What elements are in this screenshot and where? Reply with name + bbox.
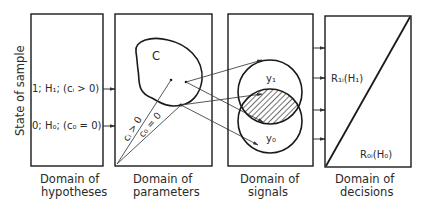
decision-region-r0: R₀ᵢ(H₀) xyxy=(360,149,392,160)
parameter-region-c xyxy=(136,39,202,107)
panel-hypotheses: 1; H₁; (cᵢ > 0) 0; H₀; (c₀ = 0) Domain o… xyxy=(31,14,107,199)
y-axis-label: State of sample xyxy=(13,45,27,136)
signal-y0-label: y₀ xyxy=(266,133,276,144)
arrow-map-1 xyxy=(186,60,262,82)
hypotheses-caption-2: hypotheses xyxy=(41,185,107,199)
decision-boundary xyxy=(326,17,410,166)
decisions-caption-1: Domain of xyxy=(335,172,395,186)
decisions-caption-2: decisions xyxy=(340,185,393,199)
signals-caption-1: Domain of xyxy=(240,172,300,186)
panel-decisions: R₁ᵢ(H₁) R₀ᵢ(H₀) Domain of decisions xyxy=(325,16,411,199)
parameters-caption-1: Domain of xyxy=(133,172,193,186)
parameters-caption-2: parameters xyxy=(133,185,200,199)
signal-y1-label: y₁ xyxy=(266,73,276,84)
region-c-label: C xyxy=(152,49,160,63)
hypothesis-h0-label: 0; H₀; (c₀ = 0) xyxy=(32,120,101,131)
panel-signals: y₁ y₀ Domain of signals xyxy=(228,14,313,199)
hypothesis-h1-label: 1; H₁; (cᵢ > 0) xyxy=(32,83,99,94)
signals-caption-2: signals xyxy=(248,185,288,199)
hypotheses-caption-1: Domain of xyxy=(40,172,100,186)
diagram-canvas: State of sample 1; H₁; (cᵢ > 0) 0; H₀; (… xyxy=(0,0,429,208)
panel-parameters: C cᵢ > 0 c₀ = 0 Domain of parameters xyxy=(115,14,212,199)
decision-region-r1: R₁ᵢ(H₁) xyxy=(331,73,363,84)
